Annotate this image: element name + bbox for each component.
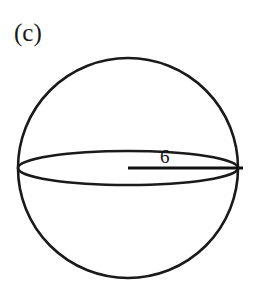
part-label: (c)	[14, 18, 42, 48]
radius-dimension-label: 6	[160, 147, 170, 167]
figure-canvas: (c) 6	[0, 0, 258, 286]
